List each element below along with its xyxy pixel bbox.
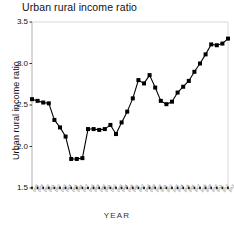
x-axis-title: YEAR bbox=[0, 211, 234, 220]
chart-container: Urban rural income ratio Urban rural inc… bbox=[0, 0, 234, 227]
chart-axes bbox=[30, 22, 229, 188]
data-point-markers bbox=[30, 37, 230, 161]
data-series-line bbox=[32, 39, 228, 159]
